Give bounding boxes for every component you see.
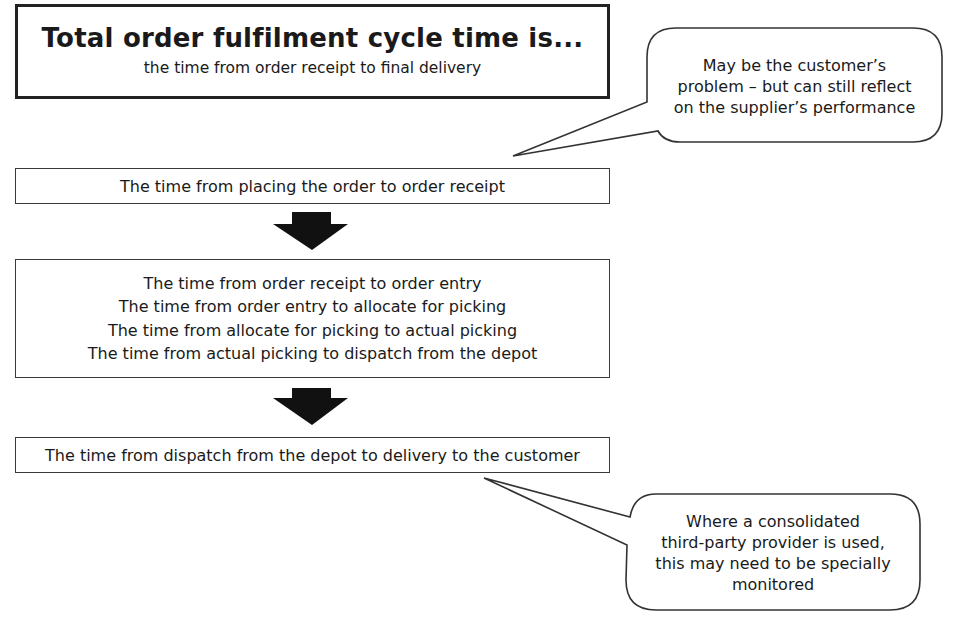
stage-text: The time from order entry to allocate fo… — [119, 295, 506, 319]
down-arrow-icon — [273, 388, 348, 425]
down-arrow-icon — [273, 212, 348, 250]
stage-text: The time from allocate for picking to ac… — [108, 319, 517, 343]
stage-text: The time from placing the order to order… — [120, 177, 505, 196]
callout-line: Where a consolidated — [686, 511, 860, 532]
callout-line: May be the customer’s — [703, 55, 886, 76]
title-box: Total order fulfilment cycle time is... … — [15, 4, 610, 99]
callout-line: third-party provider is used, — [661, 532, 885, 553]
callout-line: this may need to be specially — [655, 553, 890, 574]
diagram-subtitle: the time from order receipt to final del… — [144, 57, 481, 79]
callout-line: on the supplier’s performance — [674, 97, 915, 118]
stage-text: The time from order receipt to order ent… — [143, 272, 481, 296]
callout-customer-text: May be the customer’s problem – but can … — [652, 36, 937, 136]
callout-line: problem – but can still reflect — [678, 76, 912, 97]
callout-third-party-text: Where a consolidated third-party provide… — [630, 500, 916, 606]
stage-box-delivery: The time from dispatch from the depot to… — [15, 437, 610, 473]
diagram-title: Total order fulfilment cycle time is... — [42, 21, 584, 55]
stage-text: The time from actual picking to dispatch… — [88, 342, 537, 366]
stage-text: The time from dispatch from the depot to… — [45, 446, 580, 465]
stage-box-internal-processing: The time from order receipt to order ent… — [15, 259, 610, 378]
callout-line: monitored — [732, 574, 814, 595]
stage-box-order-placement: The time from placing the order to order… — [15, 168, 610, 204]
